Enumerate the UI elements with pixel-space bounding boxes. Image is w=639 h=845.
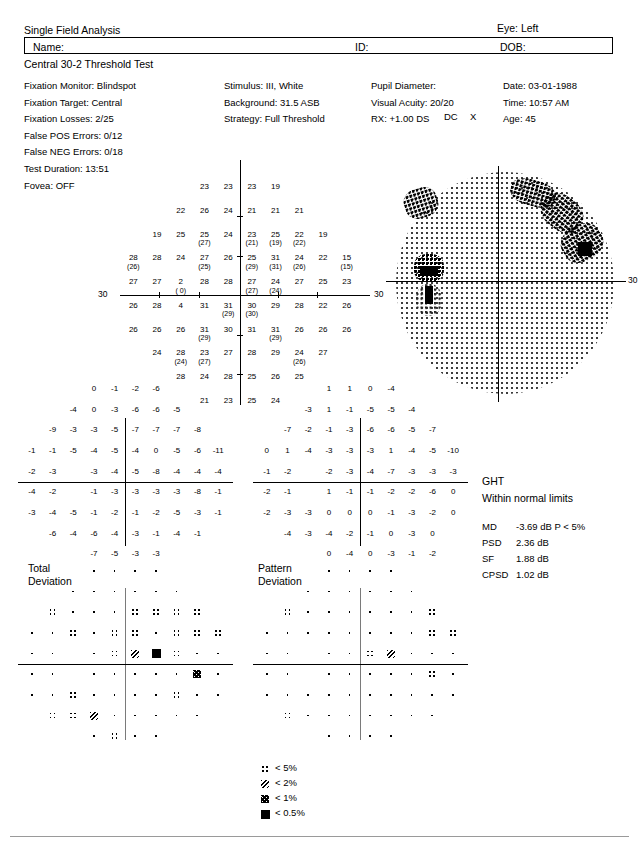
threshold-main: 27	[129, 277, 138, 286]
prob-symbol-normal	[260, 626, 274, 640]
threshold-main: 28	[200, 277, 209, 286]
deviation-value: -6	[421, 488, 443, 496]
threshold-main: 28	[247, 348, 256, 357]
deviation-value: -3	[104, 406, 126, 414]
threshold-value: 26	[263, 373, 289, 382]
deviation-value: 0	[318, 509, 340, 517]
exam-time: Time: 10:57 AM	[503, 95, 577, 112]
deviation-value: -3	[359, 447, 381, 455]
threshold-value: 22	[168, 207, 194, 216]
numeric-threshold-plot: 30 30 23232319222624212121192525(27)2423…	[120, 160, 370, 405]
deviation-value: -3	[297, 509, 319, 517]
threshold-value: 27	[120, 278, 146, 287]
rx-axis-label: X	[470, 111, 476, 122]
deviation-value: -3	[62, 426, 84, 434]
td-horizontal-axis	[18, 482, 233, 483]
deviation-value: 0	[83, 385, 105, 393]
threshold-main: 31	[271, 253, 280, 262]
threshold-value: 29	[263, 349, 289, 358]
deviation-value: -7	[145, 426, 167, 434]
prob-symbol-p5	[128, 626, 142, 640]
threshold-value: 27(27)	[239, 278, 265, 295]
deviation-value: -11	[207, 447, 229, 455]
prob-symbol-normal	[425, 688, 439, 702]
pattern-deviation-label-2: Deviation	[258, 575, 302, 587]
prob-symbol-normal	[87, 605, 101, 619]
deviation-value: -1	[380, 509, 402, 517]
deviation-value: 0	[442, 488, 464, 496]
deviation-value: 0	[256, 447, 278, 455]
threshold-main: 28	[224, 372, 233, 381]
grayscale-map: 30	[392, 170, 620, 398]
index-value: 2.36 dB	[516, 537, 549, 548]
prob-symbol-normal	[149, 729, 163, 743]
prob-symbol-normal	[405, 688, 419, 702]
threshold-main: 23	[224, 396, 233, 405]
prob-symbol-p5	[281, 709, 295, 723]
prob-symbol-p5	[190, 605, 204, 619]
ght-title: GHT	[482, 475, 504, 487]
fixation-monitor: Fixation Monitor: Blindspot	[24, 78, 136, 95]
prob-symbol-normal	[108, 585, 122, 599]
deviation-value: -5	[62, 509, 84, 517]
legend-label: < 1%	[275, 792, 297, 803]
prob-symbol-p5	[363, 647, 377, 661]
threshold-value: 26	[144, 326, 170, 335]
threshold-main: 27	[224, 348, 233, 357]
prob-symbol-normal	[87, 626, 101, 640]
threshold-main: 2	[179, 277, 183, 286]
threshold-value: 28(24)	[168, 349, 194, 366]
deviation-value: -4	[42, 509, 64, 517]
rx-cylinder-label: DC	[444, 111, 458, 122]
prob-symbol-normal	[446, 667, 460, 681]
threshold-main: 28	[224, 277, 233, 286]
deviation-value: -2	[124, 385, 146, 393]
prob-symbol-normal	[149, 564, 163, 578]
deviation-value: -3	[166, 488, 188, 496]
prob-symbol-normal	[108, 667, 122, 681]
deviation-value: -5	[62, 447, 84, 455]
prob-symbol-normal	[128, 709, 142, 723]
prob-symbol-normal	[87, 585, 101, 599]
fixation-losses: Fixation Losses: 2/25	[24, 111, 136, 128]
prob-symbol-normal	[260, 647, 274, 661]
threshold-value: 28	[144, 302, 170, 311]
index-key: SF	[482, 553, 516, 564]
deviation-value: -7	[380, 468, 402, 476]
deviation-value: -3	[145, 550, 167, 558]
threshold-value: 28	[239, 349, 265, 358]
prob-symbol-normal	[108, 605, 122, 619]
threshold-main: 28	[153, 301, 162, 310]
prob-symbol-normal	[363, 688, 377, 702]
axis-tick	[237, 335, 243, 336]
name-field-label[interactable]: Name:	[33, 41, 64, 53]
threshold-retest: (26)	[286, 358, 312, 366]
prob-symbol-normal	[46, 688, 60, 702]
exam-date: Date: 03-01-1988	[503, 78, 577, 95]
dob-field-label[interactable]: DOB:	[500, 41, 526, 53]
prob-symbol-normal	[25, 667, 39, 681]
threshold-value: 24(26)	[286, 254, 312, 271]
prob-symbol-p2	[258, 777, 272, 789]
threshold-value: 24	[168, 254, 194, 263]
threshold-main: 25	[295, 372, 304, 381]
threshold-main: 22	[176, 206, 185, 215]
id-field-label[interactable]: ID:	[355, 41, 368, 53]
false-pos-errors: False POS Errors: 0/12	[24, 128, 136, 145]
deviation-value: -3	[83, 468, 105, 476]
threshold-value: 22	[310, 302, 336, 311]
threshold-main: 26	[318, 325, 327, 334]
pd-horizontal-axis	[253, 482, 468, 483]
prob-symbol-normal	[190, 647, 204, 661]
threshold-main: 26	[271, 372, 280, 381]
threshold-main: 26	[295, 325, 304, 334]
threshold-value: 28	[286, 302, 312, 311]
test-name: Central 30-2 Threshold Test	[24, 58, 153, 70]
deviation-value: -3	[297, 406, 319, 414]
page-title: Single Field Analysis	[24, 24, 120, 36]
prob-symbol-normal	[405, 605, 419, 619]
threshold-value: 31(29)	[215, 302, 241, 319]
prob-symbol-normal	[211, 667, 225, 681]
prob-symbol-normal	[425, 647, 439, 661]
threshold-main: 31	[200, 301, 209, 310]
